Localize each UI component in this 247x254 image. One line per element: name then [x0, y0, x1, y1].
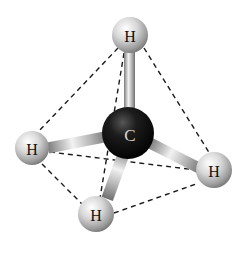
carbon-atom: C	[102, 107, 154, 159]
hydrogen-label-top: H	[124, 28, 136, 45]
hydrogen-atom-left: H	[15, 131, 49, 165]
edge-left-bottom	[42, 164, 82, 204]
hydrogen-atom-right: H	[196, 152, 232, 188]
bond-left	[47, 131, 110, 154]
hydrogen-label-right: H	[208, 163, 220, 180]
bond-top	[124, 50, 135, 112]
hydrogen-atom-top: H	[112, 17, 148, 53]
edge-top-right	[144, 48, 210, 154]
methane-diagram: C H H H H	[0, 0, 247, 254]
hydrogen-label-bottom: H	[90, 207, 102, 224]
carbon-label: C	[124, 126, 135, 145]
bond-right	[148, 138, 205, 174]
edge-bottom-right	[114, 184, 196, 213]
hydrogen-atom-bottom: H	[78, 196, 114, 232]
hydrogen-label-left: H	[26, 141, 38, 158]
